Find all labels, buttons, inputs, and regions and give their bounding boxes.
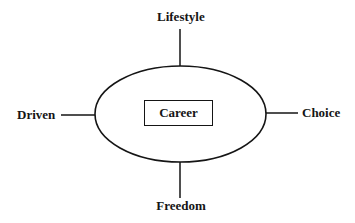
career-concept-diagram: Lifestyle Freedom Driven Choice Career — [0, 0, 355, 223]
node-bottom-freedom: Freedom — [155, 199, 207, 213]
center-node-career: Career — [144, 100, 213, 126]
node-left-driven: Driven — [17, 108, 55, 122]
node-top-lifestyle: Lifestyle — [157, 10, 203, 24]
node-right-choice: Choice — [302, 106, 340, 120]
center-node-label: Career — [159, 105, 198, 121]
